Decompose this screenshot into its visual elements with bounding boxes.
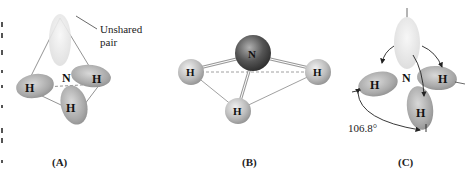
panel-a: N H H H Unshared pair (A): [14, 14, 142, 169]
bond-angle-label: 106.8°: [348, 122, 377, 134]
panel-b: N H H H (B): [178, 35, 331, 169]
panel-caption-b: (B): [242, 156, 257, 169]
panel-caption-a: (A): [52, 156, 68, 169]
base-triangle: [191, 72, 318, 110]
unshared-pair-lobe: [49, 14, 71, 66]
atom-n: N: [402, 71, 411, 85]
panel-c: N H H H 106.8° (C): [348, 8, 465, 169]
unshared-pair-label-line2: pair: [100, 36, 117, 48]
atom-h: H: [92, 72, 102, 86]
annotation-leader-line: [76, 16, 97, 29]
atom-h: H: [438, 72, 448, 86]
atom-n: N: [248, 48, 256, 60]
atom-h: H: [66, 101, 76, 115]
unshared-pair-label-line1: Unshared: [100, 23, 143, 35]
panel-caption-c: (C): [398, 156, 414, 169]
h-lobe-left: [14, 71, 56, 101]
atom-h: H: [186, 66, 195, 78]
atom-h: H: [25, 81, 35, 95]
left-edge-marks: [1, 22, 3, 163]
atom-h: H: [370, 78, 380, 92]
atom-n: N: [62, 71, 71, 85]
atom-h: H: [313, 66, 322, 78]
ammonia-geometry-figure: N H H H Unshared pair (A) N H H: [0, 0, 473, 177]
atom-h: H: [416, 106, 426, 120]
lobe-tail: [455, 82, 465, 84]
atom-h: H: [233, 105, 242, 117]
